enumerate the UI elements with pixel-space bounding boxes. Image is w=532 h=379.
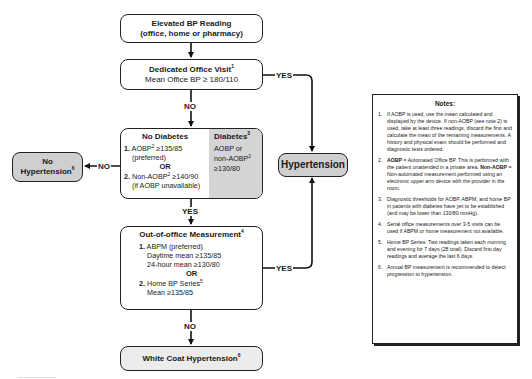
notes-panel: Notes: 1.If AOBP is used, use the mean c… (372, 94, 518, 344)
no-diabetes-or: OR (124, 162, 206, 172)
elevated-bp-subtitle: (office, home or pharmacy) (121, 29, 262, 39)
diabetes-decision-box: No Diabetes 1. AOBP2 ≥135/85 (preferred)… (120, 128, 263, 199)
label-yes-dedicated: YES (275, 71, 293, 80)
note-item: 4.Serial office measurements over 3-5 vi… (378, 221, 512, 235)
no-hypertension-box: No Hypertension6 (12, 152, 83, 182)
diabetes-section: Diabetes3 AOBP or non-AOBP2 ≥130/80 (209, 129, 263, 198)
elevated-bp-title: Elevated BP Reading (121, 19, 262, 29)
arrow-dedicated-to-hypertension (263, 75, 312, 151)
no-diabetes-item-2: 2. Non-AOBP2 ≥140/90 (if AOBP unavailabl… (124, 172, 206, 190)
dedicated-office-visit-box: Dedicated Office Visit1 Mean Office BP ≥… (120, 59, 263, 90)
no-hypertension-line2: Hypertension6 (13, 167, 82, 177)
diabetes-criteria: AOBP or non-AOBP2 ≥130/80 (214, 144, 260, 174)
footer-divider (18, 377, 56, 378)
note-item: 1.If AOBP is used, use the mean calculat… (378, 111, 512, 153)
elevated-bp-box: Elevated BP Reading (office, home or pha… (120, 14, 263, 43)
out-of-office-title: Out-of-office Measurement4 (125, 230, 258, 240)
dedicated-office-visit-subtitle: Mean Office BP ≥ 180/110 (121, 75, 262, 85)
no-diabetes-section: No Diabetes 1. AOBP2 ≥135/85 (preferred)… (121, 129, 209, 198)
label-no-out-of-office: NO (183, 322, 197, 331)
note-item: 2.AOBP = Automated Office BP. This is pe… (378, 157, 512, 192)
out-of-office-item-2: 2. Home BP Series5 Mean ≥135/85 (125, 279, 258, 297)
label-no-dedicated: NO (183, 102, 197, 111)
no-diabetes-item-1: 1. AOBP2 ≥135/85 (preferred) (124, 144, 206, 162)
hypertension-label: Hypertension (279, 159, 347, 171)
label-yes-out-of-office: YES (275, 264, 293, 273)
diabetes-title: Diabetes3 (214, 132, 260, 142)
white-coat-hypertension-box: White Coat Hypertension6 (120, 346, 263, 371)
label-yes-diabetes: YES (181, 207, 199, 216)
out-of-office-item-1: 1. ABPM (preferred) Daytime mean ≥135/85… (125, 242, 258, 269)
arrow-out-of-office-to-hypertension (263, 178, 312, 268)
notes-title: Notes: (378, 99, 512, 108)
dedicated-office-visit-title: Dedicated Office Visit1 (121, 65, 262, 75)
label-no-to-no-hypertension: NO (97, 162, 111, 171)
hypertension-box: Hypertension (278, 153, 348, 177)
no-diabetes-title: No Diabetes (124, 132, 206, 142)
note-item: 3.Diagnostic thresholds for AOBP, ABPM, … (378, 196, 512, 217)
note-item: 6.Annual BP measurement is recommended t… (378, 264, 512, 278)
out-of-office-or: OR (125, 269, 258, 279)
note-item: 5.Home BP Series: Two readings taken eac… (378, 239, 512, 260)
out-of-office-box: Out-of-office Measurement4 1. ABPM (pref… (120, 226, 263, 310)
white-coat-hypertension-label: White Coat Hypertension6 (121, 354, 262, 364)
